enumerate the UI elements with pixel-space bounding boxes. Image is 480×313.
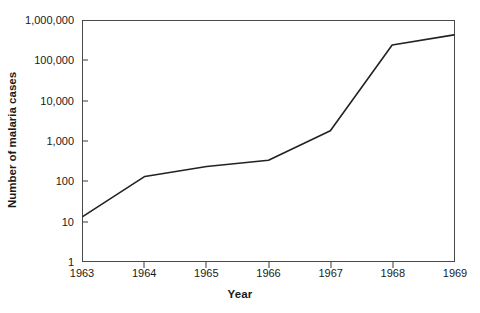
y-axis-tick-label: 1 <box>68 257 74 268</box>
x-axis-tick-label: 1967 <box>318 268 342 279</box>
y-axis-tick-label: 10,000 <box>40 95 74 106</box>
x-axis-title: Year <box>0 288 480 300</box>
x-axis-tick-label: 1964 <box>132 268 156 279</box>
x-axis-tick-label: 1968 <box>381 268 405 279</box>
x-axis-tick-labels: 1963196419651966196719681969 <box>0 268 480 286</box>
x-axis-tick-label: 1963 <box>70 268 94 279</box>
y-axis-tick-label: 1,000,000 <box>25 15 74 26</box>
x-axis-tick-label: 1969 <box>443 268 467 279</box>
y-axis-tick-label: 100,000 <box>34 55 74 66</box>
malaria-cases-line <box>83 35 454 217</box>
y-axis-tick-label: 10 <box>62 216 74 227</box>
y-axis-tick-label: 1,000 <box>46 136 74 147</box>
x-axis-tick-label: 1966 <box>256 268 280 279</box>
x-axis-tick-label: 1965 <box>194 268 218 279</box>
y-axis-tick-labels: 1101001,00010,000100,0001,000,000 <box>0 0 74 313</box>
data-line-svg <box>83 21 454 261</box>
y-axis-tick-label: 100 <box>56 176 74 187</box>
plot-area <box>82 20 455 262</box>
malaria-cases-line-chart: Number of malaria cases 1101001,00010,00… <box>0 0 480 313</box>
